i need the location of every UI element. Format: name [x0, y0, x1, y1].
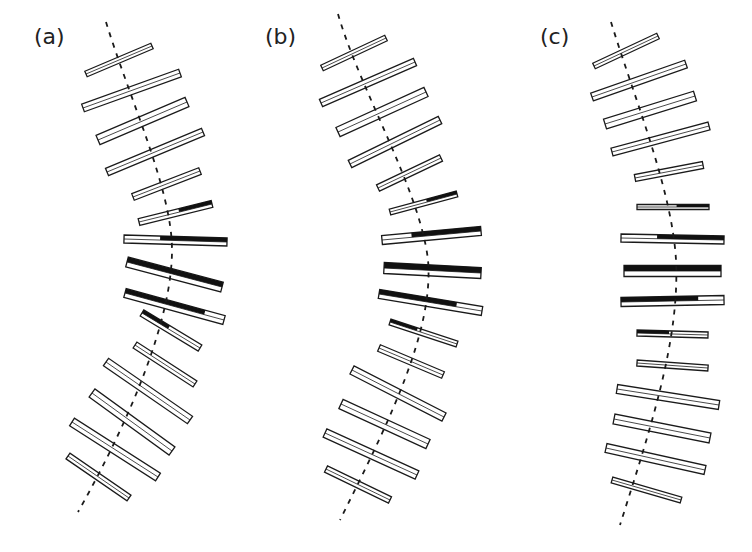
- molecule-bar: [384, 263, 482, 279]
- molecule-bar: [637, 205, 709, 210]
- molecule-bar: [637, 360, 708, 371]
- molecule-bar: [637, 330, 708, 338]
- molecule-bar: [591, 60, 688, 101]
- molecule-bar: [124, 289, 225, 325]
- molecule-bar: [605, 444, 706, 475]
- panel-b: [319, 14, 482, 520]
- panel-a: [66, 22, 227, 512]
- molecule-bar: [96, 97, 189, 144]
- molecule-bar: [321, 35, 388, 70]
- molecule-bar: [138, 201, 213, 226]
- molecule-bar: [593, 33, 660, 68]
- molecule-bar: [124, 235, 227, 246]
- molecule-bar: [389, 191, 458, 215]
- molecule-bar: [133, 342, 197, 387]
- shaded-segment: [677, 205, 709, 208]
- figure-canvas: [0, 0, 752, 552]
- molecule-bar: [382, 227, 482, 245]
- molecule-bar: [621, 296, 724, 307]
- shaded-segment: [624, 266, 721, 272]
- molecule-bar: [378, 290, 482, 316]
- molecule-bar: [616, 385, 719, 410]
- molecule-bar: [126, 257, 224, 292]
- molecule-bar: [389, 319, 458, 347]
- molecule-bar: [324, 466, 391, 503]
- molecule-bar: [613, 414, 711, 443]
- panel-c: [591, 22, 724, 525]
- panel-label-a: (a): [34, 24, 65, 49]
- molecule-bar: [611, 477, 682, 503]
- molecule-bar: [376, 155, 442, 191]
- molecule-bar: [621, 234, 724, 244]
- molecule-bar: [85, 43, 153, 77]
- shaded-segment: [127, 257, 223, 287]
- molecule-bar: [132, 168, 202, 201]
- molecule-bar: [624, 266, 721, 277]
- panel-label-b: (b): [265, 24, 296, 49]
- molecule-bar: [66, 453, 131, 501]
- molecule-bar: [604, 91, 697, 129]
- panel-label-c: (c): [540, 24, 569, 49]
- molecule-bar: [611, 122, 710, 156]
- molecule-bar: [634, 162, 703, 182]
